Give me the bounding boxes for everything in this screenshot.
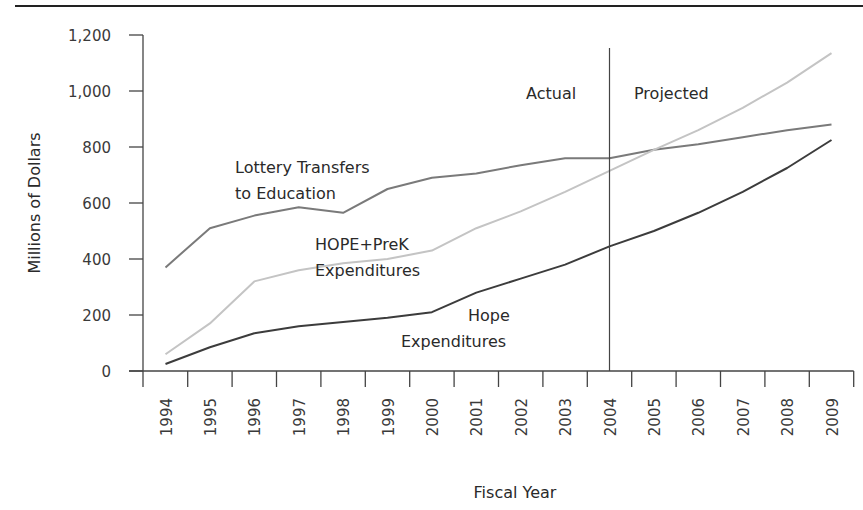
x-tick-label: 1995 [202, 398, 220, 436]
y-axis: 02004006008001,0001,200 [68, 27, 143, 387]
y-tick-label: 800 [82, 139, 111, 157]
series-label-hope-line2: Expenditures [401, 332, 506, 351]
y-tick-label: 1,000 [68, 83, 111, 101]
x-tick-label: 2008 [779, 398, 797, 436]
x-tick-label: 2005 [646, 398, 664, 436]
x-tick-label: 1998 [335, 398, 353, 436]
x-tick-label: 2003 [557, 398, 575, 436]
series-label-hopeprek-line2: Expenditures [315, 261, 420, 280]
x-tick-label: 2002 [513, 398, 531, 436]
y-tick-label: 1,200 [68, 27, 111, 45]
series-label-hopeprek-line1: HOPE+PreK [315, 235, 409, 254]
series-label-lottery-line1: Lottery Transfers [235, 158, 370, 177]
x-tick-label: 2007 [735, 398, 753, 436]
x-tick-label: 2009 [824, 398, 842, 436]
x-tick-label: 1994 [158, 398, 176, 436]
x-axis-title: Fiscal Year [474, 483, 557, 502]
y-tick-label: 200 [82, 307, 111, 325]
x-tick-label: 2000 [424, 398, 442, 436]
x-tick-label: 1996 [246, 398, 264, 436]
x-tick-label: 2006 [690, 398, 708, 436]
series-label-lottery-line2: to Education [235, 184, 336, 203]
x-tick-label: 1999 [380, 398, 398, 436]
y-tick-label: 400 [82, 251, 111, 269]
x-tick-label: 2001 [468, 398, 486, 436]
x-tick-label: 1997 [291, 398, 309, 436]
projected-annotation: Projected [634, 84, 709, 103]
line-chart: 02004006008001,0001,200 1994199519961997… [0, 0, 863, 510]
actual-annotation: Actual [526, 84, 576, 103]
x-axis: 1994199519961997199819992000200120022003… [129, 371, 854, 436]
series-label-hope-line1: Hope [468, 306, 510, 325]
y-tick-label: 0 [101, 363, 111, 381]
x-tick-label: 2004 [602, 398, 620, 436]
y-axis-title: Millions of Dollars [25, 132, 44, 273]
y-tick-label: 600 [82, 195, 111, 213]
